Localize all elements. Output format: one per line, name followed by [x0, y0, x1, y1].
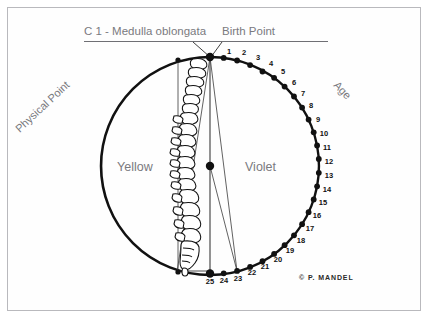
diagram-artwork — [0, 0, 430, 320]
age-label-1: 1 — [227, 47, 231, 56]
age-label-25: 25 — [206, 277, 214, 286]
radius-line-to-23 — [210, 166, 237, 271]
age-label-6: 6 — [292, 78, 296, 87]
physical-point-marker — [175, 57, 180, 62]
age-label-9: 9 — [316, 115, 320, 124]
age-label-10: 10 — [320, 129, 328, 138]
age-label-19: 19 — [286, 246, 294, 255]
center-point-dot — [206, 162, 214, 170]
age-dot-17 — [299, 221, 305, 227]
age-dot-6 — [282, 84, 288, 90]
age-label-4: 4 — [269, 59, 273, 68]
age-label-22: 22 — [248, 268, 256, 277]
age-label-23: 23 — [234, 274, 242, 283]
diagram-stage: 1234567891011121314151617181920212223242… — [0, 0, 430, 320]
age-label-12: 12 — [325, 157, 333, 166]
diagram-page: 1234567891011121314151617181920212223242… — [0, 0, 430, 320]
age-label-5: 5 — [281, 67, 285, 76]
age-dot-14 — [314, 183, 320, 189]
age-label-18: 18 — [297, 236, 305, 245]
age-dot-15 — [311, 197, 317, 203]
chord-line-birth-to-23 — [210, 57, 237, 271]
physical-point-marker-bottom — [175, 269, 180, 274]
age-dot-11 — [314, 143, 320, 149]
age-dot-16 — [306, 209, 312, 215]
age-label-3: 3 — [256, 53, 260, 62]
age-label-17: 17 — [306, 224, 314, 233]
age-dot-8 — [299, 105, 305, 111]
age-label-7: 7 — [301, 89, 305, 98]
birth-point-dot — [206, 53, 214, 61]
age-label-2: 2 — [242, 48, 246, 57]
copyright-notice: © P. MANDEL — [299, 274, 354, 281]
age-dot-12 — [316, 156, 322, 162]
title-c1-medulla-oblongata: C 1 - Medulla oblongata — [84, 25, 206, 37]
age-label-20: 20 — [274, 255, 282, 264]
age-dot-2 — [234, 58, 240, 64]
age-label-24: 24 — [220, 276, 228, 285]
age-dot-10 — [311, 129, 317, 135]
age-dot-7 — [291, 94, 297, 100]
spinal-column-illustration — [170, 58, 207, 276]
age-label-21: 21 — [261, 262, 269, 271]
age-label-13: 13 — [325, 171, 333, 180]
age-label-11: 11 — [323, 143, 331, 152]
age-dot-4 — [260, 69, 266, 75]
title-birth-point: Birth Point — [222, 25, 275, 37]
age-label-16: 16 — [313, 211, 321, 220]
age-dot-9 — [306, 117, 312, 123]
label-yellow-region: Yellow — [117, 160, 153, 174]
age-label-14: 14 — [323, 185, 331, 194]
age-label-15: 15 — [319, 198, 327, 207]
age-dot-5 — [271, 75, 277, 81]
label-violet-region: Violet — [245, 160, 276, 174]
age-dot-3 — [247, 62, 253, 68]
age-dot-1 — [221, 55, 227, 61]
age-dot-13 — [316, 170, 322, 176]
age-label-8: 8 — [309, 101, 313, 110]
